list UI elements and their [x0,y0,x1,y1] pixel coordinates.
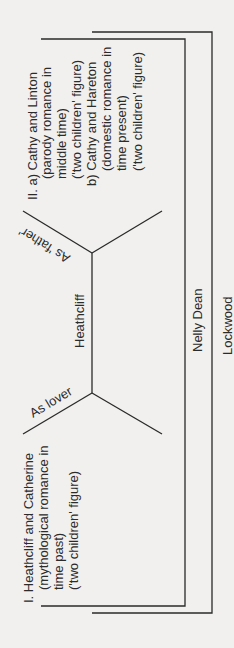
svg-text:I. Heathcliff and Catherine: I. Heathcliff and Catherine [21,453,36,603]
svg-text:(parody romance in: (parody romance in [39,67,54,179]
svg-text:('two children' figure): ('two children' figure) [69,60,84,179]
father-branch-right [92,211,162,253]
svg-text:II. a) Cathy and Linton: II. a) Cathy and Linton [25,72,40,200]
group-two-text: II. a) Cathy and Linton (parody romance … [25,47,145,200]
heathcliff-label: Heathcliff [72,294,87,348]
svg-text:(mythological romance in: (mythological romance in [36,445,51,590]
lockwood-label: Lockwood [220,296,234,355]
as-lover-label: As lover [27,383,76,420]
narrative-diagram: II. a) Cathy and Linton (parody romance … [0,0,234,648]
as-father-label: As 'father' [16,224,72,267]
lover-branch-right [92,393,162,434]
svg-text:middle time): middle time) [54,108,69,179]
svg-text:time past): time past) [51,533,66,590]
svg-text:time present): time present) [114,95,129,171]
svg-text:('two children' figure): ('two children' figure) [130,52,145,171]
group-one-text: I. Heathcliff and Catherine (mythologica… [21,445,81,603]
nelly-dean-label: Nelly Dean [190,288,205,352]
svg-text:(domestic romance in: (domestic romance in [99,47,114,171]
svg-text:b) Cathy and Hareton: b) Cathy and Hareton [84,62,99,186]
svg-text:('two children' figure): ('two children' figure) [66,471,81,590]
